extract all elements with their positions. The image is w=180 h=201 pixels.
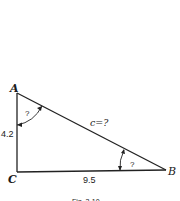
vertex-label-a: A <box>9 82 19 95</box>
side-label-cb: 9.5 <box>83 175 96 185</box>
side-cb <box>17 170 166 172</box>
side-label-ac: 4.2 <box>1 129 14 139</box>
figure-caption: Fig. 3-10 <box>72 198 100 201</box>
side-label-ab: c=? <box>90 117 109 128</box>
angle-label-a: ? <box>25 109 30 118</box>
vertex-label-b: B <box>167 165 176 178</box>
arrowhead-a1 <box>17 123 22 128</box>
side-ab <box>17 93 166 170</box>
right-triangle-diagram: A C B 4.2 9.5 c=? ? ? Fig. 3-10 <box>0 0 180 201</box>
vertex-label-c: C <box>8 173 17 186</box>
arrowhead-b2 <box>121 149 125 154</box>
angle-label-b: ? <box>130 160 135 169</box>
